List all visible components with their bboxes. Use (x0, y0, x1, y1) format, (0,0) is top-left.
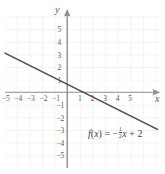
equation-paren-close: ) (99, 128, 102, 139)
equation-constant: 2 (137, 128, 142, 139)
y-tick--1: −1 (54, 102, 66, 110)
equation-label: f(x) = −12x + 2 (88, 126, 142, 140)
y-tick--5: −5 (54, 152, 66, 160)
equation-minus: − (113, 128, 119, 139)
equation-equals: = (104, 128, 110, 139)
y-tick-2: 2 (54, 64, 64, 72)
y-tick-1: 1 (54, 77, 64, 85)
x-tick-5: 5 (123, 95, 137, 103)
y-tick--3: −3 (54, 127, 66, 135)
y-tick--2: −2 (54, 115, 66, 123)
equation-var-x: x (122, 128, 126, 139)
graph-figure: y x −5 −4 −3 −2 −1 1 2 3 4 5 5 4 3 2 1 −… (0, 0, 165, 174)
coordinate-plane-svg (0, 0, 165, 174)
y-tick--4: −4 (54, 140, 66, 148)
y-axis-arrow-icon (64, 9, 71, 17)
y-tick-4: 4 (54, 39, 64, 47)
equation-plus: + (129, 128, 135, 139)
y-tick-5: 5 (54, 26, 64, 34)
x-axis-label: x (155, 94, 159, 104)
y-axis-label: y (55, 5, 59, 15)
y-tick-3: 3 (54, 52, 64, 60)
